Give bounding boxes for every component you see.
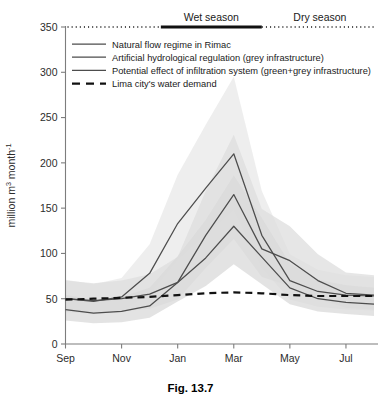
x-tick-label: Sep: [56, 352, 75, 364]
legend-label-2: Artificial hydrological regulation (grey…: [112, 53, 324, 63]
y-tick-label: 350: [40, 21, 58, 33]
x-tick-label: Mar: [225, 352, 244, 364]
chart-canvas: 050100150200250300350SepNovJanMarMayJulm…: [0, 0, 381, 402]
legend-label-4: Lima city's water demand: [112, 79, 217, 89]
x-tick-label: Jan: [169, 352, 186, 364]
y-tick-label: 200: [40, 157, 58, 169]
figure-container: 050100150200250300350SepNovJanMarMayJulm…: [0, 0, 381, 402]
y-tick-label: 250: [40, 111, 58, 123]
y-tick-label: 0: [52, 338, 58, 350]
dry-season-label: Dry season: [293, 11, 346, 23]
x-tick-label: Jul: [339, 352, 352, 364]
y-tick-label: 50: [46, 293, 58, 305]
wet-season-label: Wet season: [184, 11, 239, 23]
figure-caption: Fig. 13.7: [167, 382, 213, 394]
y-axis-title: million m3 month-1: [4, 144, 17, 228]
x-tick-label: Nov: [112, 352, 131, 364]
legend-label-1: Natural flow regime in Rimac: [112, 40, 231, 50]
y-tick-label: 300: [40, 66, 58, 78]
legend-label-3: Potential effect of infiltration system …: [112, 66, 371, 76]
y-tick-label: 150: [40, 202, 58, 214]
y-tick-label: 100: [40, 247, 58, 259]
x-tick-label: May: [280, 352, 301, 364]
